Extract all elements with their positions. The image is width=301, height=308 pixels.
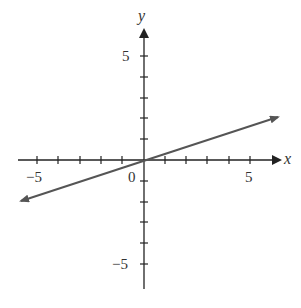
x-tick-label-5: 5 <box>245 169 253 185</box>
coordinate-plane: x y 0 −5 5 5 −5 <box>0 0 301 308</box>
plotted-line <box>21 117 278 201</box>
x-tick-label-neg5: −5 <box>26 169 42 185</box>
y-tick-label-neg5: −5 <box>112 256 128 272</box>
x-axis-label: x <box>283 150 291 167</box>
y-tick-label-5: 5 <box>122 48 130 64</box>
origin-label: 0 <box>128 169 136 185</box>
y-axis-label: y <box>136 7 146 25</box>
